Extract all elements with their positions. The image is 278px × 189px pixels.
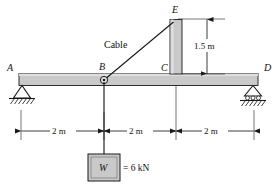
span-label-bc: 2 m xyxy=(129,126,143,136)
roller-triangle xyxy=(245,86,262,97)
roller-support-right xyxy=(240,86,266,107)
post-highlight xyxy=(171,20,174,74)
label-point-b: B xyxy=(99,61,105,72)
label-point-d: D xyxy=(263,62,272,73)
roller-hatching xyxy=(242,101,266,107)
pulley-pin xyxy=(103,79,106,82)
label-point-c: C xyxy=(161,62,168,73)
span-label-ab: 2 m xyxy=(52,126,66,136)
label-weight-value: = 6 kN xyxy=(123,163,150,173)
span-dimensions: 2 m 2 m 2 m xyxy=(21,86,254,140)
height-dim-label: 1.5 m xyxy=(194,41,215,51)
label-cable: Cable xyxy=(104,39,128,50)
span-label-cd: 2 m xyxy=(204,126,218,136)
height-dimension: 1.5 m xyxy=(178,19,225,74)
engineering-diagram: 1.5 m 2 m 2 m 2 m A B C D E Ca xyxy=(0,0,278,189)
label-point-e: E xyxy=(171,4,178,15)
pin-triangle xyxy=(14,86,31,99)
pin-support-left xyxy=(9,86,35,105)
vertical-post xyxy=(170,20,182,75)
roller-wheels xyxy=(246,96,261,100)
label-point-a: A xyxy=(6,62,14,73)
horizontal-beam xyxy=(19,74,258,86)
pin-hatching xyxy=(11,99,35,105)
